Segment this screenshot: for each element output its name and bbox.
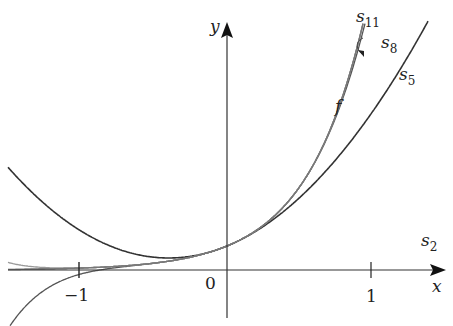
tick-label-neg1: −1 xyxy=(64,287,89,304)
curve-s11 xyxy=(8,24,363,270)
curve-s8 xyxy=(8,24,363,268)
s5-label: s5 xyxy=(399,66,415,83)
y-axis-label: y xyxy=(210,18,220,35)
s8-label: s8 xyxy=(381,34,397,51)
s2-label: s2 xyxy=(421,232,437,249)
curves xyxy=(8,21,428,326)
s11-label: s11 xyxy=(356,8,380,25)
tick-label-1: 1 xyxy=(366,288,377,305)
chart: y x 0 −1 1 f s11 s8 s5 s2 xyxy=(0,0,453,326)
curve-f xyxy=(8,24,363,270)
f-label: f xyxy=(335,98,341,115)
curve-s5 xyxy=(10,24,365,326)
x-axis-label: x xyxy=(432,278,442,295)
curve-s2 xyxy=(8,21,428,258)
origin-label: 0 xyxy=(205,275,216,292)
